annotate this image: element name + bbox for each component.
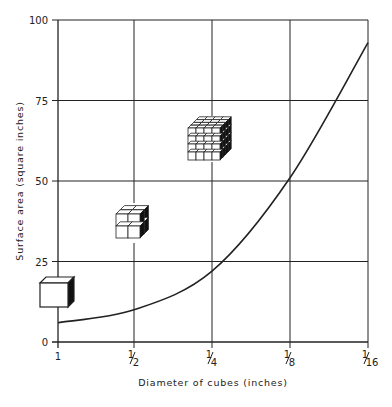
x-tick-label: 14 [206,349,217,368]
single-cube-icon [40,277,74,307]
svg-text:4: 4 [211,357,217,368]
tick-labels: 02550751001121418116 [29,15,378,368]
y-tick-label: 100 [29,15,48,26]
svg-text:8: 8 [289,357,295,368]
y-tick-label: 25 [35,257,48,268]
sixty-four-cubes-icon [186,116,240,162]
surface-area-curve [58,43,368,323]
y-axis-title: Surface area (square inches) [14,101,25,260]
x-axis-title: Diameter of cubes (inches) [138,377,288,388]
y-tick-label: 0 [42,337,48,348]
y-tick-label: 50 [35,176,48,187]
data-curve [58,43,368,323]
x-tick-label: 116 [362,349,379,368]
eight-cubes-icon [113,203,157,243]
x-tick-label: 1 [55,351,61,362]
svg-text:2: 2 [133,357,139,368]
x-tick-label: 18 [284,349,295,368]
cube-illustrations [40,116,240,307]
x-tick-label: 12 [128,349,139,368]
svg-text:16: 16 [366,357,379,368]
y-tick-label: 75 [35,96,48,107]
grid [52,20,368,348]
chart: 02550751001121418116 Diameter of cubes (… [0,0,392,407]
